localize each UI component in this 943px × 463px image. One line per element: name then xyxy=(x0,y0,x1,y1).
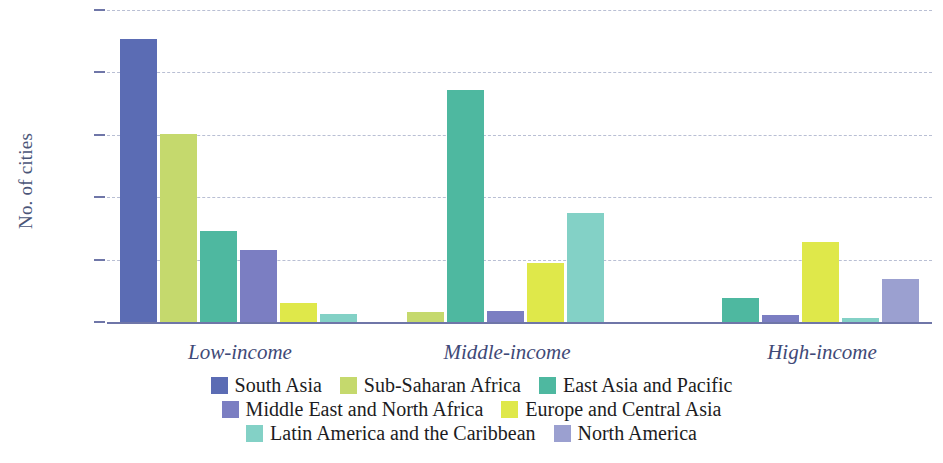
legend-label: South Asia xyxy=(235,374,322,397)
bar xyxy=(527,263,564,322)
gridline xyxy=(107,10,932,11)
bar xyxy=(842,318,879,322)
legend-swatch-icon xyxy=(211,377,228,394)
legend-swatch-icon xyxy=(501,401,518,418)
chart-legend: South AsiaSub-Saharan AfricaEast Asia an… xyxy=(0,374,943,445)
legend-item[interactable]: Europe and Central Asia xyxy=(501,398,721,421)
legend-swatch-icon xyxy=(554,425,571,442)
gridline xyxy=(107,135,932,136)
bar xyxy=(487,311,524,322)
x-axis-group-label: High-income xyxy=(682,340,943,365)
legend-item[interactable]: Latin America and the Caribbean xyxy=(246,422,535,445)
legend-label: Europe and Central Asia xyxy=(525,398,721,421)
x-axis-group-label: Low-income xyxy=(80,340,400,365)
gridline xyxy=(107,72,932,73)
legend-swatch-icon xyxy=(246,425,263,442)
legend-row: Middle East and North AfricaEurope and C… xyxy=(222,398,722,421)
bar xyxy=(882,279,919,322)
axis-baseline xyxy=(107,322,932,324)
legend-item[interactable]: South Asia xyxy=(211,374,322,397)
legend-row: South AsiaSub-Saharan AfricaEast Asia an… xyxy=(211,374,733,397)
bar xyxy=(240,250,277,322)
plot-area: 05001,0001,5002,0002,500Low-incomeMiddle… xyxy=(107,10,932,322)
legend-swatch-icon xyxy=(539,377,556,394)
bar xyxy=(200,231,237,322)
bar xyxy=(280,303,317,322)
legend-item[interactable]: Middle East and North Africa xyxy=(222,398,484,421)
y-axis-tick xyxy=(94,321,105,323)
legend-label: Sub-Saharan Africa xyxy=(364,374,521,397)
legend-item[interactable]: North America xyxy=(554,422,697,445)
x-axis-group-label: Middle-income xyxy=(367,340,647,365)
y-axis-tick xyxy=(94,259,105,261)
legend-swatch-icon xyxy=(340,377,357,394)
legend-item[interactable]: Sub-Saharan Africa xyxy=(340,374,521,397)
bar xyxy=(762,315,799,322)
bar xyxy=(802,242,839,322)
y-axis-tick xyxy=(94,134,105,136)
bar xyxy=(447,90,484,322)
y-axis-tick xyxy=(94,196,105,198)
y-axis-tick xyxy=(94,71,105,73)
bar xyxy=(567,213,604,322)
y-axis-tick xyxy=(94,9,105,11)
bar xyxy=(160,134,197,322)
legend-item[interactable]: East Asia and Pacific xyxy=(539,374,732,397)
legend-label: Middle East and North Africa xyxy=(246,398,484,421)
bar xyxy=(320,314,357,322)
legend-label: East Asia and Pacific xyxy=(563,374,732,397)
y-axis-title: No. of cities xyxy=(15,91,37,271)
bar xyxy=(407,312,444,322)
gridline xyxy=(107,197,932,198)
bar xyxy=(120,39,157,322)
bar xyxy=(722,298,759,322)
legend-swatch-icon xyxy=(222,401,239,418)
legend-label: Latin America and the Caribbean xyxy=(270,422,535,445)
bar-chart: No. of cities 05001,0001,5002,0002,500Lo… xyxy=(0,0,943,463)
legend-row: Latin America and the CaribbeanNorth Ame… xyxy=(246,422,697,445)
legend-label: North America xyxy=(578,422,697,445)
